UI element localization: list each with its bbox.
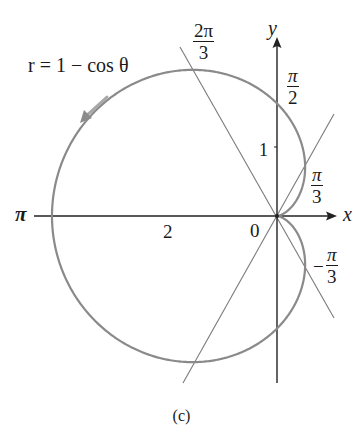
label-neg-pi-over-3-numerator: π bbox=[326, 245, 338, 266]
y-axis-label: y bbox=[268, 18, 277, 38]
label-pi-over-3-numerator: π bbox=[311, 165, 323, 186]
equation-label: r = 1 − cos θ bbox=[28, 55, 128, 75]
figure-caption: (c) bbox=[0, 407, 363, 425]
label-pi-over-2-denominator: 2 bbox=[288, 87, 298, 107]
label-neg-pi-over-3: π 3 bbox=[326, 245, 338, 286]
label-pi-over-3: π 3 bbox=[311, 165, 323, 206]
origin-point bbox=[275, 214, 279, 218]
x-tick-label: 2 bbox=[163, 222, 173, 241]
label-2pi-over-3-numerator: 2π bbox=[193, 21, 214, 42]
x-axis-label: x bbox=[343, 204, 352, 224]
label-neg-pi-over-3-denominator: 3 bbox=[327, 266, 337, 286]
direction-arrow-icon bbox=[80, 97, 107, 123]
y-tick-label: 1 bbox=[259, 141, 268, 159]
label-2pi-over-3: 2π 3 bbox=[193, 21, 214, 62]
label-pi-over-2-numerator: π bbox=[287, 66, 299, 87]
equation-text: r = 1 − cos θ bbox=[28, 54, 128, 76]
label-pi-over-3-denominator: 3 bbox=[312, 186, 322, 206]
label-2pi-over-3-denominator: 3 bbox=[199, 42, 209, 62]
origin-label: 0 bbox=[250, 221, 260, 240]
label-pi: π bbox=[15, 204, 26, 225]
label-pi-over-2: π 2 bbox=[287, 66, 299, 107]
label-neg-pi-over-3-sign: − bbox=[313, 257, 324, 276]
